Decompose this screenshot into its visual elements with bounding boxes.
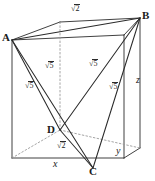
edge-top-left-back xyxy=(12,22,60,40)
vertex-label-B: B xyxy=(142,10,149,21)
edge-length-dc: 2 xyxy=(56,141,66,150)
tetra-edge-ad xyxy=(12,40,60,130)
vertex-label-D: D xyxy=(47,124,55,135)
edge-length-ab: 2 xyxy=(70,4,80,13)
tetrahedron-edges xyxy=(12,18,140,168)
box-tetrahedron-drawing xyxy=(0,0,155,181)
edge-length-ac: 5 xyxy=(44,61,54,70)
edge-length-bd: 5 xyxy=(88,59,98,68)
edge-bottom-right-back xyxy=(124,148,140,158)
vertex-label-C: C xyxy=(89,166,97,177)
edge-length-ad: 5 xyxy=(24,81,34,90)
axis-label-z: z xyxy=(136,75,140,85)
axis-label-x: x xyxy=(53,159,57,169)
tetra-edge-ac xyxy=(12,40,93,168)
box-hidden-edges xyxy=(12,22,140,158)
geometry-figure: A B C D 2 5 5 5 5 2 x y z xyxy=(0,0,155,181)
tetra-edge-bd xyxy=(60,18,140,130)
vertex-label-A: A xyxy=(2,32,10,43)
edge-length-bc: 5 xyxy=(108,82,118,91)
axis-label-y: y xyxy=(116,146,120,156)
